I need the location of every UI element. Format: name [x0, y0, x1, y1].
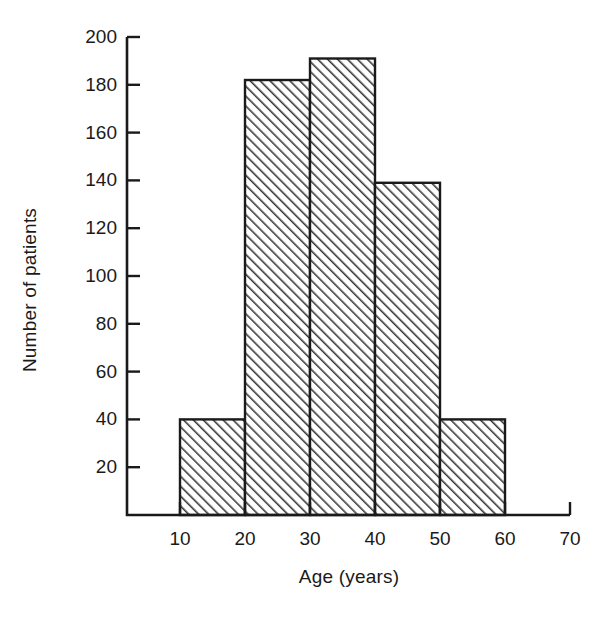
y-tick-label: 60 [55, 361, 117, 383]
x-tick-label: 60 [494, 528, 515, 550]
histogram-bar [310, 59, 375, 515]
x-tick-label: 30 [299, 528, 320, 550]
y-tick-label: 80 [55, 313, 117, 335]
y-tick-label: 140 [55, 169, 117, 191]
y-tick-label: 20 [55, 456, 117, 478]
y-tick-label: 40 [55, 408, 117, 430]
x-tick-label: 20 [234, 528, 255, 550]
histogram-bar [440, 419, 505, 515]
x-tick-label: 10 [169, 528, 190, 550]
histogram-bar [180, 419, 245, 515]
histogram-figure: Number of patients Age (years) 204060801… [0, 0, 611, 617]
histogram-bar [245, 80, 310, 515]
x-tick-label: 50 [429, 528, 450, 550]
x-tick-label: 70 [559, 528, 580, 550]
y-tick-label: 180 [55, 74, 117, 96]
y-tick-label: 120 [55, 217, 117, 239]
histogram-bar [375, 183, 440, 515]
y-tick-label: 200 [55, 26, 117, 48]
x-tick-label: 40 [364, 528, 385, 550]
y-tick-label: 100 [55, 265, 117, 287]
y-tick-label: 160 [55, 122, 117, 144]
bars-group [180, 59, 505, 515]
x-axis-label: Age (years) [127, 566, 571, 588]
